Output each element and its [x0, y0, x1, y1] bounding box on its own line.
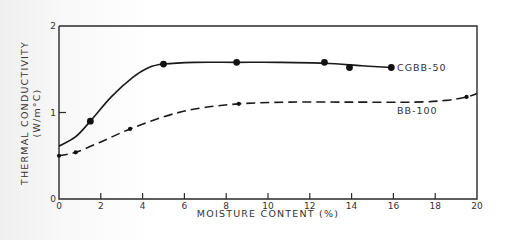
data-point-cgbb-50 [87, 118, 94, 125]
data-point-bb-100 [464, 95, 468, 99]
x-axis-title: MOISTURE CONTENT (%) [197, 208, 339, 219]
thermal-conductivity-chart: 02468101214161820012 CGBB-50 BB-100 MOIS… [0, 0, 511, 232]
series-line-cgbb-50 [59, 62, 391, 146]
data-point-cgbb-50 [388, 64, 395, 71]
x-tick-label: 0 [56, 201, 62, 211]
y-axis-title-group: THERMAL CONDUCTIVITY (W/m°C) [19, 41, 42, 186]
x-tick-label: 2 [98, 201, 104, 211]
ticks [59, 113, 435, 200]
series-label-cgbb-50: CGBB-50 [397, 62, 447, 73]
data-point-bb-100 [57, 154, 61, 158]
data-point-cgbb-50 [321, 59, 328, 66]
data-point-cgbb-50 [346, 64, 353, 71]
y-tick-label: 1 [50, 108, 56, 118]
y-tick-label: 0 [50, 194, 56, 204]
data-point-cgbb-50 [160, 61, 167, 68]
x-tick-label: 4 [140, 201, 146, 211]
x-tick-label: 18 [429, 201, 441, 211]
series-labels: CGBB-50 BB-100 [397, 62, 447, 116]
x-tick-label: 20 [471, 201, 483, 211]
x-tick-label: 6 [182, 201, 188, 211]
data-point-bb-100 [74, 150, 78, 154]
y-tick-label: 2 [50, 21, 56, 31]
series-label-bb-100: BB-100 [397, 105, 438, 116]
series-line-bb-100 [59, 93, 477, 155]
data-point-bb-100 [128, 127, 132, 131]
y-axis-units: (W/m°C) [31, 88, 42, 137]
data-point-cgbb-50 [233, 59, 240, 66]
x-tick-label: 14 [346, 201, 358, 211]
data-point-bb-100 [237, 102, 241, 106]
x-tick-label: 16 [388, 201, 400, 211]
tick-labels: 02468101214161820012 [50, 21, 483, 211]
y-axis-title: THERMAL CONDUCTIVITY [19, 41, 30, 186]
